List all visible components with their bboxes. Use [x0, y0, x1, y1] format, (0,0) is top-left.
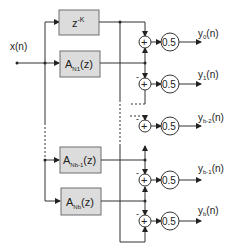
- delay-block: z-K: [59, 10, 99, 35]
- output-row-0: + 0.5 y0(n): [139, 28, 219, 51]
- input-label: x(n): [10, 41, 27, 52]
- svg-text:0.5: 0.5: [162, 121, 176, 132]
- allpass-block-n1: AN1(z): [60, 51, 100, 77]
- filter-bank-diagram: x(n) z-K AN1(z) ANb-1(z) ANb(z): [0, 0, 233, 251]
- svg-text:+: +: [141, 215, 147, 227]
- svg-text:+: +: [141, 36, 147, 48]
- input-x: x(n): [10, 41, 47, 65]
- svg-text:0.5: 0.5: [162, 37, 176, 48]
- svg-text:+: +: [141, 174, 147, 186]
- svg-text:-: -: [136, 168, 139, 178]
- allpass-block-nb-1: ANb-1(z): [60, 147, 101, 173]
- svg-text:0.5: 0.5: [162, 216, 176, 227]
- output-row-b-1: - + 0.5 yb-1(n): [136, 163, 224, 189]
- svg-text:-: -: [136, 72, 139, 82]
- allpass-block-nb: ANb(z): [61, 188, 101, 215]
- svg-text:0.5: 0.5: [162, 175, 176, 186]
- svg-text:+: +: [141, 78, 147, 90]
- output-row-b-2: - + 0.5 yb-2(n): [136, 112, 224, 135]
- output-row-b: - + 0.5 yb(n): [136, 205, 219, 230]
- svg-text:+: +: [141, 120, 147, 132]
- svg-text:y1(n): y1(n): [198, 69, 219, 81]
- svg-text:-: -: [136, 209, 139, 219]
- svg-text:yb-2(n): yb-2(n): [198, 112, 224, 124]
- delay-bus: [120, 22, 145, 242]
- svg-text:yb-1(n): yb-1(n): [198, 163, 224, 175]
- block-output-lines: [99, 21, 147, 203]
- input-bus: [44, 22, 61, 201]
- svg-text:yb(n): yb(n): [198, 205, 219, 217]
- svg-text:y0(n): y0(n): [198, 28, 219, 40]
- svg-text:-: -: [136, 114, 139, 124]
- svg-text:0.5: 0.5: [162, 79, 176, 90]
- output-row-1: - + 0.5 y1(n): [136, 69, 219, 93]
